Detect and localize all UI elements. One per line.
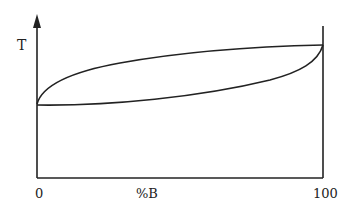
y-axis-arrow-icon: [33, 14, 41, 28]
liquidus-curve: [37, 45, 323, 104]
diagram-graphics: [0, 0, 355, 211]
x-axis-label: %B: [136, 187, 158, 200]
phase-diagram: T 0 %B 100: [0, 0, 355, 211]
x-tick-right: 100: [313, 187, 338, 200]
y-axis-label: T: [17, 38, 26, 52]
x-tick-left: 0: [35, 187, 43, 200]
